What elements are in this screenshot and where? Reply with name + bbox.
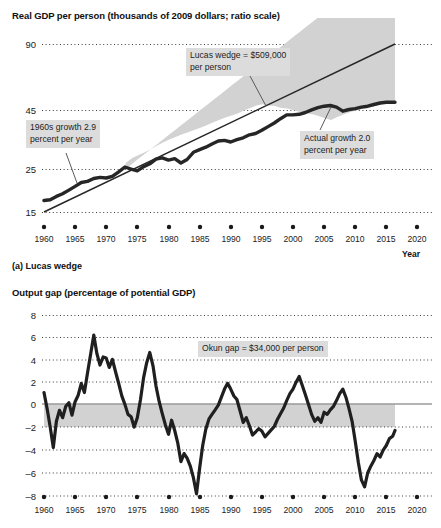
ytick-15: 15 — [25, 207, 36, 218]
ytick-0: 0 — [31, 399, 36, 410]
xtick-1985: 1985 — [190, 234, 209, 244]
annotation-lucas-wedge-line2: per person — [190, 62, 286, 74]
panel-b-xtick-dots — [42, 495, 419, 499]
xtick-1975: 1975 — [127, 234, 146, 244]
annotation-lucas-wedge: Lucas wedge = $509,000 per person — [186, 48, 290, 76]
ytick-45: 45 — [25, 105, 36, 116]
figure-container: Real GDP per person (thousands of 2009 d… — [0, 0, 441, 528]
xtick-1990: 1990 — [221, 505, 240, 515]
xtick-1970: 1970 — [96, 505, 115, 515]
annotation-lucas-wedge-line1: Lucas wedge = $509,000 — [190, 50, 286, 62]
xtick-2005: 2005 — [314, 234, 333, 244]
ytick-4: 4 — [31, 355, 36, 366]
xtick-1970: 1970 — [96, 234, 115, 244]
xtick-1995: 1995 — [252, 234, 271, 244]
xtick-1985: 1985 — [190, 505, 209, 515]
annotation-actual-growth-line2: percent per year — [304, 145, 370, 157]
ytick-neg8: –8 — [25, 491, 36, 502]
ytick-25: 25 — [25, 164, 36, 175]
ytick-neg4: –4 — [25, 445, 36, 456]
panel-b-title: Output gap (percentage of potential GDP) — [12, 287, 195, 298]
panel-b-chart: 8 6 4 2 0 –2 –4 –6 –8 — [0, 305, 441, 528]
xtick-2005: 2005 — [314, 505, 333, 515]
xtick-1960: 1960 — [34, 505, 53, 515]
xtick-2000: 2000 — [283, 505, 302, 515]
xtick-2015: 2015 — [376, 505, 395, 515]
panel-a-x-axis-title: Year — [402, 249, 420, 259]
ytick-8: 8 — [31, 310, 36, 321]
okun-gap-shaded-area — [44, 404, 395, 427]
xtick-1995: 1995 — [252, 505, 271, 515]
xtick-2020: 2020 — [407, 234, 426, 244]
xtick-2010: 2010 — [345, 505, 364, 515]
panel-a-caption: (a) Lucas wedge — [12, 261, 82, 271]
ytick-90: 90 — [25, 39, 36, 50]
annotation-1960s-growth: 1960s growth 2.9 percent per year — [26, 120, 100, 148]
annotation-okun-gap: Okun gap = $34,000 per person — [198, 341, 328, 357]
xtick-2015: 2015 — [376, 234, 395, 244]
leader-1960s-growth — [66, 153, 77, 183]
annotation-actual-growth: Actual growth 2.0 percent per year — [300, 131, 374, 159]
panel-b-xtick-labels: 1960 1965 1970 1975 1980 1985 1990 1995 … — [34, 505, 426, 515]
xtick-2020: 2020 — [407, 505, 426, 515]
annotation-1960s-growth-line2: percent per year — [30, 134, 96, 146]
xtick-1965: 1965 — [65, 234, 84, 244]
xtick-2000: 2000 — [283, 234, 302, 244]
panel-a-xtick-labels: 1960 1965 1970 1975 1980 1985 1990 1995 … — [34, 234, 426, 244]
ytick-2: 2 — [31, 377, 36, 388]
annotation-1960s-growth-line1: 1960s growth 2.9 — [30, 122, 96, 134]
xtick-1980: 1980 — [159, 234, 178, 244]
panel-b-ytick-labels: 8 6 4 2 0 –2 –4 –6 –8 — [25, 310, 36, 502]
ytick-6: 6 — [31, 332, 36, 343]
xtick-1975: 1975 — [127, 505, 146, 515]
ytick-neg6: –6 — [25, 468, 36, 479]
xtick-1980: 1980 — [159, 505, 178, 515]
xtick-2010: 2010 — [345, 234, 364, 244]
ytick-neg2: –2 — [25, 422, 36, 433]
xtick-1965: 1965 — [65, 505, 84, 515]
panel-a-xtick-dots — [42, 225, 419, 229]
annotation-actual-growth-line1: Actual growth 2.0 — [304, 133, 370, 145]
xtick-1990: 1990 — [221, 234, 240, 244]
xtick-1960: 1960 — [34, 234, 53, 244]
